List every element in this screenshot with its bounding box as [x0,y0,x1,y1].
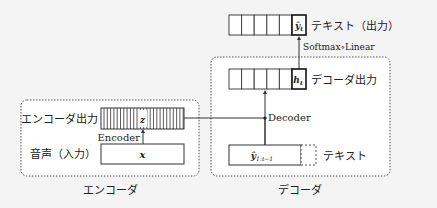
decoder-input-label: テキスト [323,150,367,163]
projection-label: Softmax∘Linear [303,42,375,52]
decoder-arrow-label: Decoder [268,112,311,123]
encoder-input-label: 音声（入力） [30,147,96,161]
encoder-decoder-diagram: エンコーダ z エンコーダ出力 Encoder x 音声（入力） デコーダ ŷt… [0,0,437,208]
sequence-cell [267,15,280,35]
sequence-cell [242,15,255,35]
encoder-input-symbol: x [139,149,147,160]
sequence-cell [267,69,280,89]
sequence-cell [279,69,292,89]
sequence-cell [254,69,267,89]
sequence-cell [229,69,242,89]
final-output-label: テキスト（出力） [311,19,399,33]
projection-arrowhead [297,36,301,40]
encoder-arrow-label: Encoder [98,132,141,143]
encoder-group-label: エンコーダ [83,183,138,197]
junction-dot [263,116,266,119]
decoder-input-next-slot [301,145,316,165]
sequence-cell [279,15,292,35]
decoder-output-label: デコーダ出力 [311,73,377,87]
decoder-group-label: デコーダ [278,183,322,197]
encoder-output-label: エンコーダ出力 [21,112,98,126]
decoder-output-block: ht [229,69,306,89]
encoder-output-block: z [101,108,184,129]
sequence-cell [229,15,242,35]
encoder-output-symbol: z [139,115,146,125]
sequence-cell [254,15,267,35]
final-output-block: ŷt [229,15,306,35]
sequence-cell [242,69,255,89]
